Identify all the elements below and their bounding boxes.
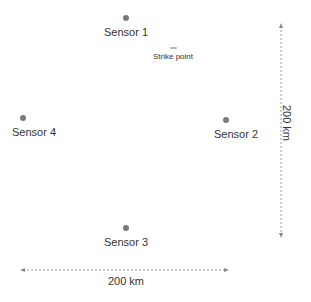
vertical-scale-label: 200 km	[281, 105, 293, 141]
arrowhead-left-icon	[20, 268, 25, 272]
sensor-3-dot-icon	[123, 225, 129, 231]
scale-arrows	[0, 0, 311, 302]
horizontal-scale-label: 200 km	[108, 275, 144, 287]
sensor-1-dot-icon	[123, 15, 129, 21]
sensor-1-label: Sensor 1	[104, 26, 148, 38]
sensor-4-label: Sensor 4	[12, 126, 56, 138]
sensor-2-label: Sensor 2	[214, 128, 258, 140]
strike-point-marker-icon	[170, 47, 177, 49]
arrowhead-up-icon	[279, 23, 283, 28]
strike-point-label: Strike point	[153, 52, 193, 61]
arrowhead-down-icon	[279, 233, 283, 238]
sensor-4-dot-icon	[20, 115, 26, 121]
sensor-2-dot-icon	[223, 117, 229, 123]
arrowhead-right-icon	[224, 268, 229, 272]
sensor-3-label: Sensor 3	[104, 236, 148, 248]
